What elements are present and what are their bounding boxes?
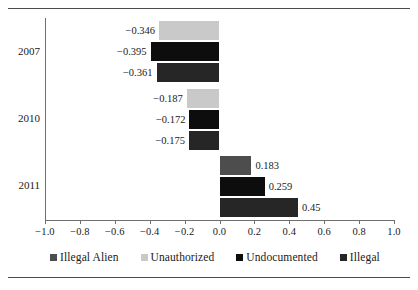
x-tick-mark <box>394 220 395 224</box>
x-tick-mark <box>115 220 116 224</box>
x-tick-label: −0.6 <box>105 226 124 237</box>
bar-value-label: −0.361 <box>115 63 153 82</box>
bar-value-label: −0.175 <box>147 131 185 150</box>
x-tick-label: 0.0 <box>213 226 226 237</box>
legend-item[interactable]: Undocumented <box>236 251 317 263</box>
bar <box>220 198 299 217</box>
bar <box>187 89 220 108</box>
x-tick-label: 0.6 <box>317 226 330 237</box>
bar <box>159 21 219 40</box>
bar-value-label: 0.45 <box>302 198 320 217</box>
x-tick-mark <box>254 220 255 224</box>
legend-item[interactable]: Illegal Alien <box>50 251 118 263</box>
bar <box>220 156 252 175</box>
x-tick-label: −1.0 <box>35 226 54 237</box>
chart-legend: Illegal AlienUnauthorizedUndocumentedIll… <box>0 251 418 263</box>
bar-value-label: 0.259 <box>269 177 293 196</box>
legend-item[interactable]: Unauthorized <box>141 251 215 263</box>
bar <box>157 63 220 82</box>
x-tick-mark <box>359 220 360 224</box>
y-axis-label-2007: 2007 <box>2 45 40 57</box>
x-tick-label: −0.8 <box>70 226 89 237</box>
x-tick-label: −0.2 <box>175 226 194 237</box>
x-tick-mark <box>220 220 221 224</box>
x-tick-label: 1.0 <box>387 226 400 237</box>
legend-label: Illegal <box>350 251 380 263</box>
x-tick-label: 0.2 <box>248 226 261 237</box>
x-tick-label: 0.4 <box>283 226 296 237</box>
bottom-rule <box>8 277 410 278</box>
legend-swatch-icon <box>236 254 243 261</box>
x-tick-label: 0.8 <box>352 226 365 237</box>
x-tick-mark <box>185 220 186 224</box>
bar-chart-figure: 2007 2010 2011 −1.0 −0.8 −0.6 −0.4 −0.2 … <box>0 0 418 290</box>
y-axis-label-2011: 2011 <box>2 179 40 191</box>
bar <box>151 42 220 61</box>
x-tick-mark <box>324 220 325 224</box>
bar <box>220 177 265 196</box>
x-tick-mark <box>45 220 46 224</box>
bar-value-label: −0.172 <box>147 110 185 129</box>
bar <box>189 110 219 129</box>
bar-value-label: −0.346 <box>117 21 155 40</box>
legend-label: Unauthorized <box>151 251 215 263</box>
top-rule <box>8 8 410 9</box>
x-tick-mark <box>289 220 290 224</box>
bar-value-label: 0.183 <box>255 156 279 175</box>
y-axis-label-2010: 2010 <box>2 112 40 124</box>
legend-swatch-icon <box>50 254 57 261</box>
legend-item[interactable]: Illegal <box>340 251 380 263</box>
bar-value-label: −0.395 <box>109 42 147 61</box>
x-tick-label: −0.4 <box>140 226 159 237</box>
x-tick-mark <box>80 220 81 224</box>
x-tick-mark <box>150 220 151 224</box>
legend-swatch-icon <box>340 254 347 261</box>
legend-label: Illegal Alien <box>60 251 118 263</box>
bar-value-label: −0.187 <box>145 89 183 108</box>
legend-swatch-icon <box>141 254 148 261</box>
bar <box>189 131 220 150</box>
legend-label: Undocumented <box>246 251 317 263</box>
